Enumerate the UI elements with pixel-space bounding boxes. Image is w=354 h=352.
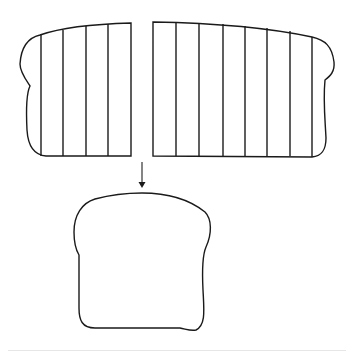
right-loaf-half [153,22,334,157]
left-loaf-half [20,23,131,156]
arrow-down-icon [139,162,146,188]
bottom-divider [8,350,346,351]
bread-diagram [0,0,354,352]
bread-slice-outline [74,193,210,330]
